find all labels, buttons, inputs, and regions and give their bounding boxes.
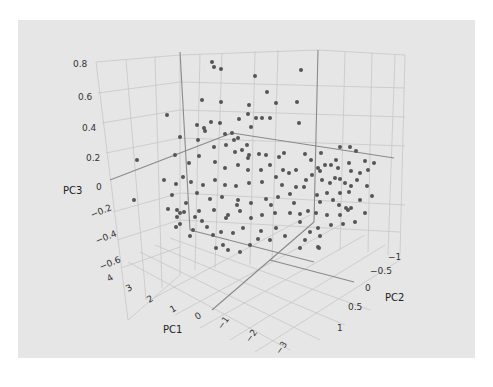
data-point (302, 185, 306, 189)
data-point (365, 184, 369, 188)
data-point (260, 213, 264, 217)
data-point (236, 198, 240, 202)
data-point (212, 65, 216, 69)
pc3-tick: 0 (96, 182, 102, 192)
scatter-3d-chart: 0.8 0.6 0.4 0.2 0 −0.2 −0.4 −0.6 PC3 4 3… (0, 0, 493, 387)
data-point (347, 161, 351, 165)
data-point (347, 190, 351, 194)
data-point (246, 168, 250, 172)
data-point (276, 195, 280, 199)
data-point (319, 151, 323, 155)
data-point (195, 191, 199, 195)
data-point (173, 153, 177, 157)
pc1-axis-label: PC1 (163, 324, 182, 335)
data-point (268, 163, 272, 167)
data-point (223, 166, 227, 170)
data-point (240, 148, 244, 152)
data-point (256, 237, 260, 241)
data-point (338, 177, 342, 181)
data-point (338, 213, 342, 217)
pc3-tick: 0.4 (82, 123, 97, 133)
data-point (372, 161, 376, 165)
data-point (246, 156, 250, 160)
data-point (211, 233, 215, 237)
data-point (325, 191, 329, 195)
data-point (358, 198, 362, 202)
pc1-tick: 2 (145, 293, 155, 305)
data-point (318, 200, 322, 204)
pc1-tick: 3 (124, 282, 134, 294)
pc3-tick: −0.4 (94, 228, 118, 246)
grid-back-right (180, 50, 405, 270)
data-point (338, 145, 342, 149)
data-point (210, 60, 214, 64)
data-point (314, 211, 318, 215)
data-point (249, 216, 253, 220)
data-point (205, 225, 209, 229)
data-point (323, 163, 327, 167)
data-point (223, 183, 227, 187)
data-point (333, 176, 337, 180)
data-point (283, 234, 287, 238)
data-point (298, 220, 302, 224)
pc2-tick: −1 (388, 252, 401, 262)
data-point (274, 101, 278, 105)
data-point (337, 203, 341, 207)
pc3-axis-label: PC3 (63, 185, 82, 196)
data-point (316, 245, 320, 249)
pc3-tick: −0.6 (98, 254, 122, 272)
data-point (247, 181, 251, 185)
data-point (187, 161, 191, 165)
data-point (331, 198, 335, 202)
data-point (219, 100, 223, 104)
pc2-tick: 0.5 (348, 302, 362, 312)
data-point (212, 145, 216, 149)
data-point (191, 228, 195, 232)
data-point (316, 226, 320, 230)
data-point (282, 151, 286, 155)
data-point (274, 226, 278, 230)
data-point (320, 178, 324, 182)
data-point (203, 129, 207, 133)
data-point (280, 183, 284, 187)
data-point (264, 197, 268, 201)
data-point (288, 192, 292, 196)
data-point (249, 201, 253, 205)
data-point (220, 195, 224, 199)
data-point (214, 246, 218, 250)
data-point (132, 198, 136, 202)
data-point (325, 213, 329, 217)
data-point (277, 155, 281, 159)
data-point (308, 230, 312, 234)
data-point (269, 203, 273, 207)
data-point (257, 152, 261, 156)
data-point (303, 152, 307, 156)
data-point (234, 184, 238, 188)
pc3-tick: 0.8 (73, 59, 88, 69)
data-point (259, 168, 263, 172)
data-point (294, 168, 298, 172)
data-point (238, 250, 242, 254)
data-point (213, 178, 217, 182)
data-point (223, 132, 227, 136)
pc1-tick: 1 (168, 303, 178, 315)
data-point (193, 215, 197, 219)
data-point (268, 116, 272, 120)
data-point (197, 209, 201, 213)
data-point (329, 223, 333, 227)
data-point (165, 113, 169, 117)
data-point (348, 145, 352, 149)
data-point (246, 112, 250, 116)
data-point (253, 74, 257, 78)
data-point (188, 234, 192, 238)
data-point (355, 178, 359, 182)
data-point (178, 135, 182, 139)
data-point (189, 180, 193, 184)
data-point (174, 182, 178, 186)
data-point (174, 225, 178, 229)
data-point (292, 201, 296, 205)
data-point (231, 231, 235, 235)
data-point (288, 211, 292, 215)
data-point (233, 150, 237, 154)
data-point (200, 219, 204, 223)
